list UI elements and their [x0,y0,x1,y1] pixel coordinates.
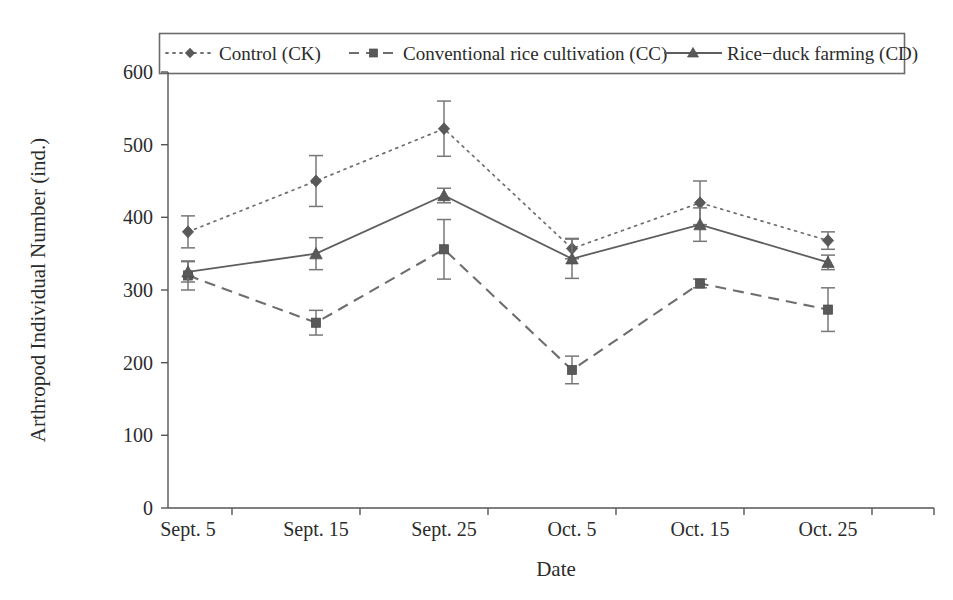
x-tick-label-oct-25: Oct. 25 [799,518,858,540]
x-tick-label-sept-15: Sept. 15 [283,518,349,541]
legend-marker-ck-diamond-icon [185,48,194,58]
chart-series-layer [181,101,835,384]
series-cc [181,220,835,384]
data-point-ck-5 [822,235,833,247]
data-point-cd-2 [438,189,450,200]
series-line-cc [188,249,828,370]
legend-label-cd: Rice−duck farming (CD) [727,43,918,65]
x-tick-label-sept-25: Sept. 25 [411,518,477,541]
y-tick-label-600: 600 [123,61,153,83]
y-axis-tick-labels: 600 500 400 300 200 100 0 [123,61,153,519]
x-tick-label-sept-5: Sept. 5 [160,518,216,541]
data-point-cc-3 [567,365,576,374]
data-point-cc-4 [695,279,704,288]
data-point-ck-1 [310,175,321,187]
legend-entry-cd: Rice−duck farming (CD) [664,43,918,65]
y-tick-label-0: 0 [143,497,153,519]
data-point-cc-1 [311,318,320,327]
arthropod-line-chart: Control (CK) Conventional rice cultivati… [0,0,953,600]
y-tick-label-400: 400 [123,206,153,228]
data-point-cc-5 [823,305,832,314]
y-tick-label-100: 100 [123,424,153,446]
chart-legend: Control (CK) Conventional rice cultivati… [160,34,919,74]
series-line-ck [188,129,828,249]
data-point-cc-2 [439,245,448,254]
series-line-cd [188,196,828,272]
y-axis-ticks [161,72,168,508]
y-tick-label-500: 500 [123,134,153,156]
legend-entry-ck: Control (CK) [166,43,321,65]
x-tick-label-oct-15: Oct. 15 [671,518,730,540]
x-axis-title: Date [536,557,576,581]
legend-marker-cc-square-icon [370,49,378,57]
legend-entry-cc: Conventional rice cultivation (CC) [349,43,667,65]
legend-label-cc: Conventional rice cultivation (CC) [403,43,667,65]
x-tick-label-oct-5: Oct. 5 [548,518,597,540]
series-cd [181,188,835,282]
y-tick-label-200: 200 [123,352,153,374]
x-axis-tick-labels: Sept. 5 Sept. 15 Sept. 25 Oct. 5 Oct. 15… [160,518,857,541]
data-point-ck-0 [182,226,193,238]
y-axis-title: Arthropod Individual Number (ind.) [26,138,50,442]
x-axis-ticks [232,508,934,515]
chart-figure: Control (CK) Conventional rice cultivati… [0,0,953,600]
data-point-ck-4 [694,197,705,209]
legend-label-ck: Control (CK) [219,43,321,65]
chart-axes: 600 500 400 300 200 100 0 Sept. 5 [26,61,934,581]
y-tick-label-300: 300 [123,279,153,301]
data-point-cd-1 [310,247,322,258]
